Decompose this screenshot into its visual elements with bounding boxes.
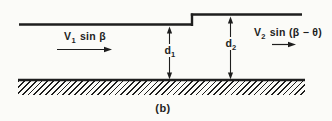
v1-flow-arrow-icon	[57, 47, 112, 52]
d2-depth-label: d2	[218, 37, 244, 50]
d1-subscript: 1	[171, 50, 175, 59]
v1-subscript: 1	[71, 36, 75, 45]
d1-depth-label: d1	[157, 44, 183, 57]
v2-expression: sin (β − θ)	[270, 26, 322, 38]
v1-expression: sin β	[80, 30, 106, 42]
figure-caption: (b)	[141, 102, 185, 114]
v2-velocity-label: V2sin (β − θ)	[248, 26, 328, 39]
v1-velocity-label: V1sin β	[52, 30, 118, 43]
v2-flow-arrow-icon	[272, 42, 296, 47]
flow-step-diagram: V1sin β V2sin (β − θ) d1 d2 (b)	[0, 0, 332, 121]
v2-subscript: 2	[261, 32, 265, 41]
d2-subscript: 2	[232, 43, 236, 52]
